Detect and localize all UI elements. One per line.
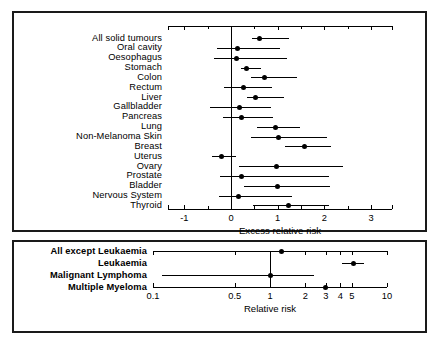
row-label: Liver	[141, 92, 162, 102]
row-label: Nervous System	[92, 190, 162, 200]
axis-tick-label: 0.5	[228, 291, 241, 301]
point-estimate	[239, 174, 244, 179]
axis-tick-minor	[254, 206, 255, 209]
row-label: Lung	[141, 121, 162, 131]
forest-plot-figure: -10123Excess relative risk All solid tum…	[0, 0, 439, 344]
axis-end-cap	[168, 26, 169, 30]
axis-tick-major	[235, 283, 236, 287]
row-label: Pancreas	[122, 111, 162, 121]
confidence-interval	[244, 186, 330, 187]
confidence-interval	[224, 87, 272, 88]
point-estimate	[235, 46, 240, 51]
confidence-interval	[253, 205, 329, 206]
axis-end-cap	[168, 205, 169, 209]
axis-tick-major	[235, 251, 236, 255]
row-label: Colon	[137, 72, 162, 82]
axis-tick-minor	[348, 206, 349, 209]
row-label: Uterus	[134, 151, 162, 161]
confidence-interval	[257, 127, 300, 128]
row-label: Stomach	[125, 62, 162, 72]
axis-tick-label: 10	[382, 291, 392, 301]
axis-tick-minor	[254, 26, 255, 29]
axis-tick-major	[371, 26, 372, 30]
point-estimate	[274, 164, 279, 169]
point-estimate	[273, 125, 278, 130]
point-estimate	[323, 285, 328, 290]
row-label: Oesophagus	[108, 52, 162, 62]
axis-tick-label: 4	[338, 291, 343, 301]
axis-tick-major	[387, 283, 388, 287]
panel-haematological: 0.10.51234510Relative risk All except Le…	[12, 240, 427, 333]
point-estimate	[257, 36, 262, 41]
confidence-interval	[239, 166, 343, 167]
point-estimate	[239, 115, 244, 120]
axis-title: Excess relative risk	[239, 225, 321, 236]
axis-tick-label: 0	[228, 213, 233, 223]
row-label: Bladder	[129, 180, 162, 190]
axis-tick-major	[153, 251, 154, 255]
axis-tick-major	[371, 205, 372, 209]
reference-line	[270, 251, 271, 287]
point-estimate	[276, 135, 281, 140]
axis-tick-major	[184, 26, 185, 30]
axis-tick-major	[153, 283, 154, 287]
axis-tick-major	[305, 251, 306, 255]
panel-solid-tumours: -10123Excess relative risk All solid tum…	[12, 11, 427, 232]
point-estimate	[279, 249, 284, 254]
axis-tick-major	[184, 205, 185, 209]
axis-tick-minor	[348, 26, 349, 29]
row-label: Rectum	[129, 82, 162, 92]
axis-tick-label: 3	[323, 291, 328, 301]
axis-tick-major	[326, 251, 327, 255]
row-label: Malignant Lymphoma	[50, 270, 147, 280]
point-estimate	[275, 184, 280, 189]
confidence-interval	[251, 77, 298, 78]
axis-bottom-rule	[168, 209, 392, 210]
axis-top-rule	[168, 26, 392, 27]
axis-tick-minor	[208, 26, 209, 29]
confidence-interval	[162, 275, 314, 276]
point-estimate	[244, 66, 249, 71]
row-label: Breast	[135, 141, 162, 151]
axis-tick-minor	[301, 206, 302, 209]
row-label: Multiple Myeloma	[68, 282, 147, 292]
point-estimate	[237, 105, 242, 110]
axis-tick-label: 1	[267, 291, 272, 301]
point-estimate	[253, 95, 258, 100]
point-estimate	[262, 75, 267, 80]
axis-tick-label: 1	[275, 213, 280, 223]
confidence-interval	[285, 146, 331, 147]
axis-title: Relative risk	[244, 303, 296, 314]
point-estimate	[351, 261, 356, 266]
row-label: Non-Melanoma Skin	[76, 131, 162, 141]
axis-tick-major	[352, 251, 353, 255]
axis-end-cap	[392, 26, 393, 30]
row-label: All solid tumours	[92, 33, 162, 43]
confidence-interval	[220, 176, 329, 177]
axis-end-cap	[392, 205, 393, 209]
confidence-interval	[219, 196, 291, 197]
row-label: Ovary	[137, 161, 162, 171]
point-estimate	[286, 203, 291, 208]
point-estimate	[241, 85, 246, 90]
row-label: Prostate	[127, 170, 162, 180]
row-label: All except Leukaemia	[50, 246, 147, 256]
axis-tick-label: 3	[368, 213, 373, 223]
confidence-interval	[251, 137, 327, 138]
row-label: Thyroid	[130, 200, 162, 210]
axis-tick-label: -1	[180, 213, 188, 223]
confidence-interval	[214, 58, 287, 59]
axis-tick-major	[324, 26, 325, 30]
confidence-interval	[217, 48, 280, 49]
point-estimate	[236, 194, 241, 199]
axis-tick-major	[387, 251, 388, 255]
axis-tick-minor	[301, 26, 302, 29]
axis-tick-major	[278, 26, 279, 30]
axis-tick-label: 2	[322, 213, 327, 223]
solid-tumour-row-labels: All solid tumoursOral cavityOesophagusSt…	[14, 13, 162, 230]
point-estimate	[219, 154, 224, 159]
haematological-row-labels: All except LeukaemiaLeukaemiaMalignant L…	[14, 242, 147, 331]
point-estimate	[302, 144, 307, 149]
axis-tick-label: 0.1	[147, 291, 160, 301]
row-label: Leukaemia	[98, 258, 147, 268]
